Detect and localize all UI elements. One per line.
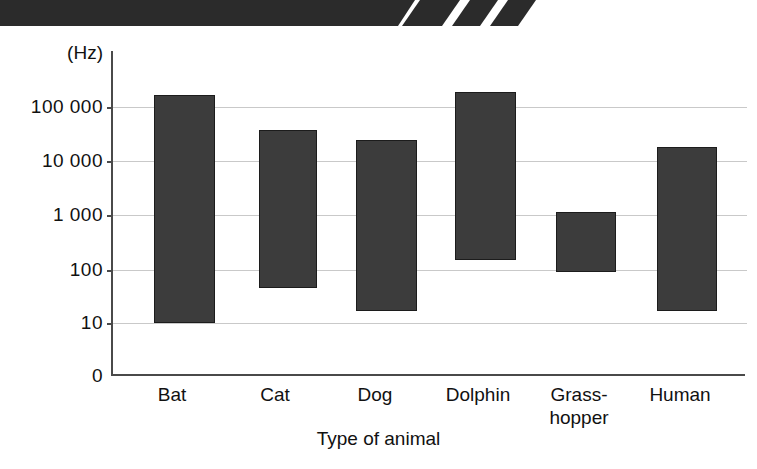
gridline-10 bbox=[113, 323, 747, 324]
banner-shape-icon bbox=[0, 0, 757, 34]
y-tick-100000 bbox=[107, 107, 113, 109]
bar-human bbox=[657, 147, 717, 311]
x-tick-label-dog: Dog bbox=[325, 383, 425, 406]
bar-dog bbox=[356, 140, 417, 311]
y-tick-label-10: 10 bbox=[81, 312, 103, 334]
plot-area bbox=[111, 51, 745, 376]
bar-bat bbox=[154, 95, 215, 323]
y-tick-label-1000: 1 000 bbox=[53, 204, 103, 226]
bar-chart: (Hz) 100 000 10 000 1 000 100 10 0 bbox=[0, 34, 757, 469]
x-tick-label-grasshopper: Grass- hopper bbox=[529, 383, 629, 429]
x-tick-label-bat: Bat bbox=[122, 383, 222, 406]
chart-page: (Hz) 100 000 10 000 1 000 100 10 0 bbox=[0, 0, 757, 469]
y-tick-label-10000: 10 000 bbox=[42, 150, 103, 172]
decorative-top-banner bbox=[0, 0, 757, 34]
y-tick-10 bbox=[107, 323, 113, 325]
y-tick-label-100: 100 bbox=[70, 259, 103, 281]
bar-cat bbox=[259, 130, 317, 288]
x-tick-label-human: Human bbox=[630, 383, 730, 406]
y-tick-1000 bbox=[107, 215, 113, 217]
y-axis-unit-label: (Hz) bbox=[0, 42, 103, 64]
bar-grasshopper bbox=[556, 212, 616, 272]
x-tick-label-dolphin: Dolphin bbox=[423, 383, 533, 406]
y-tick-100 bbox=[107, 270, 113, 272]
y-tick-label-100000: 100 000 bbox=[31, 96, 103, 118]
x-tick-label-cat: Cat bbox=[225, 383, 325, 406]
y-tick-label-0: 0 bbox=[92, 365, 103, 387]
x-axis-title: Type of animal bbox=[0, 428, 757, 450]
bar-dolphin bbox=[455, 92, 516, 260]
y-axis-labels: (Hz) 100 000 10 000 1 000 100 10 0 bbox=[0, 34, 103, 469]
y-tick-10000 bbox=[107, 161, 113, 163]
